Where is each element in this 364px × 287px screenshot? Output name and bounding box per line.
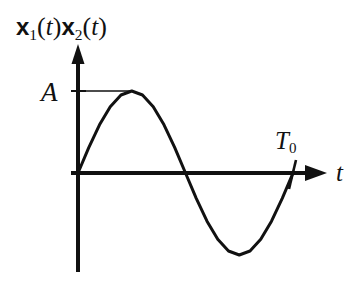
ordinate-axis-label: x1(t)x2(t) xyxy=(16,14,107,40)
ordinate-open-paren-2: ( xyxy=(83,12,92,41)
ordinate-variable-1: t xyxy=(46,13,53,40)
ordinate-symbol-2: x xyxy=(61,13,74,40)
period-base-symbol: T xyxy=(275,127,289,154)
y-axis-arrowhead xyxy=(72,44,85,64)
amplitude-label: A xyxy=(41,79,58,106)
ordinate-symbol-1: x xyxy=(16,13,29,40)
ordinate-open-paren-1: ( xyxy=(37,12,46,41)
period-subscript: 0 xyxy=(289,140,297,156)
ordinate-subscript-2: 2 xyxy=(75,26,83,43)
abscissa-axis-label: t xyxy=(336,160,343,185)
period-label: T0 xyxy=(275,128,296,153)
x-axis-arrowhead xyxy=(305,165,327,181)
ordinate-close-paren-2: ) xyxy=(98,12,107,41)
ordinate-subscript-1: 1 xyxy=(29,26,37,43)
waveform-plot xyxy=(0,0,364,287)
figure-canvas: x1(t)x2(t) A T0 t xyxy=(0,0,364,287)
